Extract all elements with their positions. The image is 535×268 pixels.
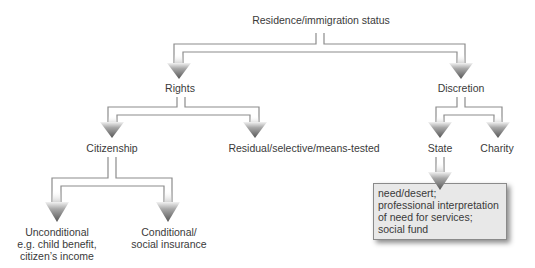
node-conditional: Conditional/ social insurance xyxy=(131,226,206,250)
node-unconditional: Unconditional e.g. child benefit, citize… xyxy=(17,226,96,262)
node-unconditional-line: Unconditional xyxy=(17,226,96,238)
node-unconditional-line: e.g. child benefit, xyxy=(17,238,96,250)
node-conditional-line: Conditional/ xyxy=(131,226,206,238)
node-conditional-line: social insurance xyxy=(131,238,206,250)
arrow-down-icon xyxy=(428,172,452,190)
node-unconditional-line: citizen’s income xyxy=(17,250,96,262)
